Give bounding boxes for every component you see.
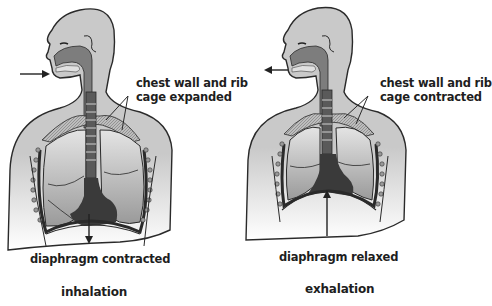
inhalation-figure: chest wall and rib cage expanded diaphra… [0, 0, 240, 306]
trachea [86, 92, 96, 178]
chest-label-line1: chest wall and rib [380, 76, 492, 90]
figure-title: exhalation [305, 282, 374, 296]
chest-label-line1: chest wall and rib [136, 76, 248, 90]
chest-label-line2: cage contracted [380, 90, 482, 104]
chest-label-line2: cage expanded [136, 90, 232, 104]
airflow-arrow-in-icon [20, 70, 50, 78]
airflow-arrow-out-icon [264, 66, 288, 74]
figure-title: inhalation [61, 285, 127, 299]
exhalation-figure: chest wall and rib cage contracted diaph… [240, 0, 478, 306]
diaphragm-label: diaphragm relaxed [279, 250, 398, 264]
diaphragm-label: diaphragm contracted [30, 252, 170, 266]
